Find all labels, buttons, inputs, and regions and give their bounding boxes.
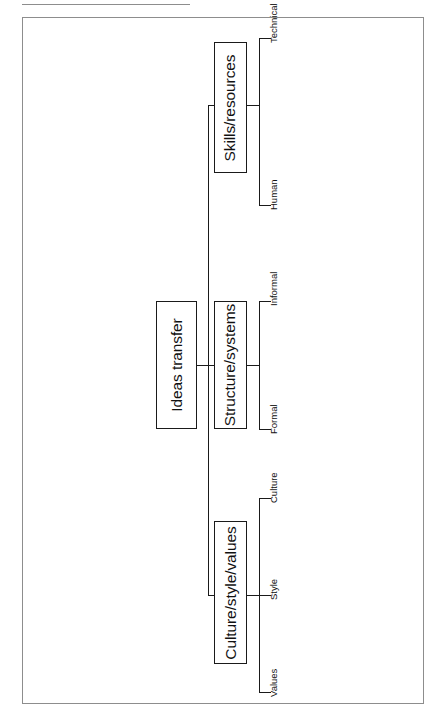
- skills-leaf-connector: [247, 105, 259, 106]
- node-culture-style-values: Culture/style/values: [214, 521, 247, 664]
- skills-leaf-bracket-spine: [259, 38, 260, 205]
- leaf-label-style: Style: [268, 579, 279, 600]
- leaf-label-technical: Technical: [268, 3, 279, 43]
- leaf-label-culture: Culture: [268, 472, 279, 503]
- node-skills-resources: Skills/resources: [214, 42, 247, 173]
- top-horizontal-rule: [22, 4, 190, 5]
- leaf-label-values: Values: [268, 669, 279, 697]
- leaf-label-informal: Informal: [268, 272, 279, 306]
- node-skills-resources-label: Skills/resources: [222, 54, 240, 161]
- root-connector-stub: [197, 365, 208, 366]
- culture-leaf-connector: [247, 595, 259, 596]
- leaf-label-human: Human: [268, 179, 279, 210]
- node-ideas-transfer-label: Ideas transfer: [168, 318, 186, 411]
- structure-leaf-connector: [247, 365, 259, 366]
- structure-leaf-bracket-spine: [259, 301, 260, 429]
- node-structure-systems: Structure/systems: [214, 301, 247, 429]
- node-structure-systems-label: Structure/systems: [222, 304, 240, 426]
- node-ideas-transfer: Ideas transfer: [156, 301, 197, 429]
- leaf-label-formal: Formal: [268, 404, 279, 434]
- figure-frame: Ideas transfer Skills/resources Technica…: [22, 17, 424, 704]
- node-culture-style-values-label: Culture/style/values: [222, 526, 240, 659]
- trunk-spine: [208, 105, 209, 595]
